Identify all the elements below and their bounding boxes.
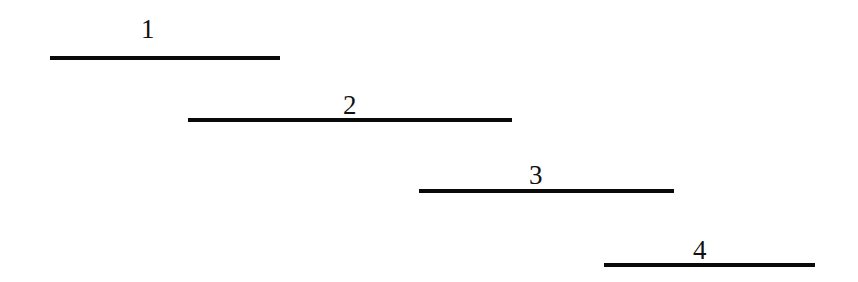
segment-1-line: [50, 56, 280, 60]
segment-4-line: [604, 263, 815, 267]
segment-2: 2: [188, 90, 512, 122]
segment-3-line: [419, 189, 674, 193]
segment-3-label: 3: [529, 162, 543, 189]
segment-2-line: [188, 118, 512, 122]
segment-4-label: 4: [693, 237, 707, 264]
segment-1: 1: [50, 14, 280, 60]
segment-1-label: 1: [141, 16, 155, 43]
segment-4: 4: [604, 235, 815, 267]
segment-2-label: 2: [343, 92, 357, 119]
diagram-canvas: 1 2 3 4: [0, 0, 858, 282]
segment-3: 3: [419, 160, 674, 193]
